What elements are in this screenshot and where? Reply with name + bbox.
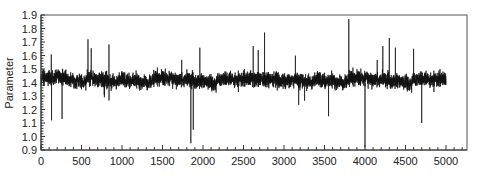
y-tick-label: 1.6 [22,50,37,62]
y-tick-label: 1.2 [22,104,37,116]
time-series-chart: 0500100015002000250030003500400045005000… [0,0,477,180]
plot-area [41,15,467,150]
y-tick-label: 0.9 [22,144,37,156]
x-tick-label: 1000 [110,155,134,167]
y-tick-label: 1.7 [22,36,37,48]
y-tick-label: 1.8 [22,23,37,35]
x-tick-label: 3000 [272,155,296,167]
x-tick-label: 4000 [353,155,377,167]
y-tick-label: 1.0 [22,131,37,143]
y-tick-label: 1.9 [22,9,37,21]
x-tick-label: 2000 [191,155,215,167]
x-tick-label: 0 [38,155,44,167]
x-tick-label: 500 [72,155,90,167]
x-tick-label: 2500 [231,155,255,167]
x-tick-label: 1500 [150,155,174,167]
y-tick-label: 1.5 [22,63,37,75]
x-tick-label: 4500 [393,155,417,167]
y-tick-label: 1.3 [22,90,37,102]
x-tick-label: 5000 [434,155,458,167]
y-tick-label: 1.1 [22,117,37,129]
y-axis-title: Parameter [3,57,15,109]
x-tick-label: 3500 [312,155,336,167]
y-axis: 0.91.01.11.21.31.41.51.61.71.81.9 [22,9,45,156]
y-tick-label: 1.4 [22,77,37,89]
